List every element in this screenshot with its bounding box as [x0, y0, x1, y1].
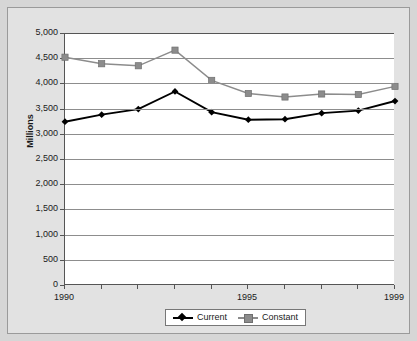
gridline — [65, 33, 394, 34]
data-point-marker — [172, 47, 178, 53]
y-axis-tick-marks — [8, 33, 64, 285]
gridline — [65, 159, 394, 160]
x-axis-tick-mark — [394, 285, 395, 289]
x-axis-tick-mark — [321, 285, 322, 289]
legend-swatch-icon — [173, 313, 193, 322]
gridline — [65, 83, 394, 84]
x-axis-tick-mark — [174, 285, 175, 289]
data-point-marker — [245, 116, 252, 123]
x-axis-tick-mark — [211, 285, 212, 289]
gridline — [65, 58, 394, 59]
data-point-marker — [99, 61, 105, 67]
data-point-marker — [282, 116, 289, 123]
chart-frame: 5,0004,5004,0003,5003,0002,5002,0001,500… — [7, 7, 410, 334]
x-axis-tick-mark — [64, 285, 65, 289]
data-point-marker — [392, 83, 398, 89]
data-point-marker — [392, 98, 399, 105]
x-axis-tick-mark — [101, 285, 102, 289]
data-point-marker — [245, 90, 251, 96]
x-axis-tick-marks — [64, 285, 395, 291]
data-point-marker — [98, 111, 105, 118]
gridline — [65, 235, 394, 236]
x-axis-tick-label: 1999 — [384, 292, 404, 302]
x-axis-tick-label: 1995 — [237, 292, 257, 302]
x-axis-tick-mark — [284, 285, 285, 289]
gridline — [65, 184, 394, 185]
x-axis-tick-labels: 199019951999 — [64, 292, 395, 306]
series-line — [65, 92, 395, 122]
gridline — [65, 109, 394, 110]
series-constant — [62, 47, 398, 100]
x-axis-tick-mark — [247, 285, 248, 289]
gridline — [65, 260, 394, 261]
chart-screenshot: 5,0004,5004,0003,5003,0002,5002,0001,500… — [0, 0, 417, 341]
legend-label: Constant — [262, 312, 298, 322]
x-axis-tick-label: 1990 — [54, 292, 74, 302]
legend-swatch-icon — [238, 313, 258, 322]
series-current — [62, 88, 399, 125]
y-axis-title: Millions — [25, 101, 35, 161]
data-point-marker — [282, 94, 288, 100]
plot-area — [64, 33, 394, 285]
legend-entry-constant[interactable]: Constant — [238, 312, 298, 322]
chart-legend: CurrentConstant — [165, 309, 306, 326]
gridline — [65, 134, 394, 135]
legend-entry-current[interactable]: Current — [173, 312, 227, 322]
data-point-marker — [135, 63, 141, 69]
data-point-marker — [355, 91, 361, 97]
x-axis-tick-mark — [137, 285, 138, 289]
data-point-marker — [318, 110, 325, 117]
legend-label: Current — [197, 312, 227, 322]
gridline — [65, 209, 394, 210]
x-axis-tick-mark — [357, 285, 358, 289]
data-point-marker — [319, 91, 325, 97]
